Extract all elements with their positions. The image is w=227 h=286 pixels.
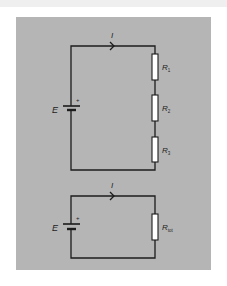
resistor-r3-label: R3 <box>162 146 171 156</box>
resistor-rtot-label: Rtot <box>162 223 174 233</box>
equivalent-circuit: I E + Rtot <box>52 181 174 258</box>
resistor-r2 <box>152 95 158 121</box>
resistor-r1-label: R1 <box>162 63 171 73</box>
current-label: I <box>111 31 114 40</box>
current-label: I <box>111 181 114 190</box>
circuit-diagram: I E + R1 R2 R3 I E + Rtot <box>0 0 227 286</box>
resistor-r1 <box>152 54 158 80</box>
emf-label: E <box>52 223 59 233</box>
emf-label: E <box>52 105 59 115</box>
resistor-rtot <box>152 214 158 240</box>
wire-bottom <box>71 229 155 258</box>
resistor-r2-label: R2 <box>162 104 171 114</box>
wire-top <box>71 196 155 224</box>
resistor-r3 <box>152 137 158 162</box>
wire-top <box>71 46 155 106</box>
series-circuit: I E + R1 R2 R3 <box>52 31 171 170</box>
polarity-plus: + <box>76 97 80 103</box>
polarity-plus: + <box>76 215 80 221</box>
wire-bottom <box>71 110 155 170</box>
